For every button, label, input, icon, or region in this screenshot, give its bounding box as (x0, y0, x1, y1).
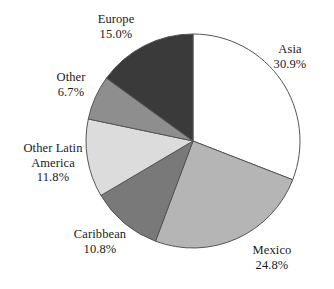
slice-label-other-latin-america-name-line2: America (4, 156, 102, 171)
slice-label-other-latin-america-name-line1: Other Latin (4, 141, 102, 156)
slice-label-other-latin-america: Other Latin America 11.8% (4, 141, 102, 185)
pie-chart-figure: Europe 15.0% Asia 30.9% Mexico 24.8% Car… (0, 0, 334, 289)
chart-plot-area: Europe 15.0% Asia 30.9% Mexico 24.8% Car… (0, 0, 334, 289)
slice-label-caribbean-name: Caribbean (50, 227, 150, 242)
slice-label-europe: Europe 15.0% (68, 12, 164, 41)
slice-label-other: Other 6.7% (30, 70, 112, 99)
slice-label-caribbean: Caribbean 10.8% (50, 227, 150, 256)
slice-label-caribbean-value: 10.8% (50, 242, 150, 257)
slice-label-asia-name: Asia (248, 42, 332, 57)
slice-label-europe-value: 15.0% (68, 27, 164, 42)
slice-label-other-latin-america-value: 11.8% (4, 170, 102, 185)
slice-label-asia-value: 30.9% (248, 57, 332, 72)
slice-label-other-value: 6.7% (30, 85, 112, 100)
slice-label-asia: Asia 30.9% (248, 42, 332, 71)
slice-label-mexico-name: Mexico (228, 243, 316, 258)
slice-label-mexico-value: 24.8% (228, 258, 316, 273)
slice-label-other-name: Other (30, 70, 112, 85)
slice-label-europe-name: Europe (68, 12, 164, 27)
slice-label-mexico: Mexico 24.8% (228, 243, 316, 272)
